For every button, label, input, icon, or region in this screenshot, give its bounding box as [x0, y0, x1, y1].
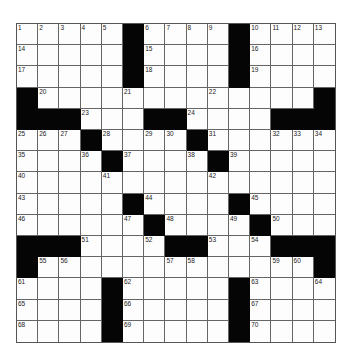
- grid-cell[interactable]: [271, 172, 292, 193]
- grid-cell[interactable]: [314, 321, 335, 342]
- grid-cell[interactable]: [102, 236, 123, 257]
- grid-cell[interactable]: [271, 66, 292, 87]
- grid-cell[interactable]: [293, 45, 314, 66]
- grid-cell[interactable]: [123, 109, 144, 130]
- grid-cell[interactable]: [59, 300, 80, 321]
- grid-cell[interactable]: [102, 109, 123, 130]
- grid-cell[interactable]: 9: [208, 24, 229, 45]
- grid-cell[interactable]: 39: [229, 151, 250, 172]
- grid-cell[interactable]: 42: [208, 172, 229, 193]
- grid-cell[interactable]: 51: [81, 236, 102, 257]
- grid-cell[interactable]: [187, 172, 208, 193]
- grid-cell[interactable]: [250, 151, 271, 172]
- grid-cell[interactable]: [250, 109, 271, 130]
- grid-cell[interactable]: [165, 151, 186, 172]
- grid-cell[interactable]: [144, 151, 165, 172]
- grid-cell[interactable]: 43: [17, 194, 38, 215]
- grid-cell[interactable]: [293, 278, 314, 299]
- grid-cell[interactable]: 40: [17, 172, 38, 193]
- grid-cell[interactable]: [59, 151, 80, 172]
- grid-cell[interactable]: 50: [271, 215, 292, 236]
- grid-cell[interactable]: 6: [144, 24, 165, 45]
- grid-cell[interactable]: 70: [250, 321, 271, 342]
- grid-cell[interactable]: [187, 88, 208, 109]
- grid-cell[interactable]: [187, 215, 208, 236]
- grid-cell[interactable]: 35: [17, 151, 38, 172]
- grid-cell[interactable]: [59, 194, 80, 215]
- grid-cell[interactable]: 61: [17, 278, 38, 299]
- grid-cell[interactable]: [165, 45, 186, 66]
- grid-cell[interactable]: [229, 257, 250, 278]
- grid-cell[interactable]: 33: [293, 130, 314, 151]
- grid-cell[interactable]: [144, 172, 165, 193]
- grid-cell[interactable]: [144, 278, 165, 299]
- grid-cell[interactable]: [59, 172, 80, 193]
- grid-cell[interactable]: [38, 194, 59, 215]
- grid-cell[interactable]: 19: [250, 66, 271, 87]
- grid-cell[interactable]: [314, 172, 335, 193]
- grid-cell[interactable]: [38, 45, 59, 66]
- grid-cell[interactable]: [208, 321, 229, 342]
- grid-cell[interactable]: 34: [314, 130, 335, 151]
- grid-cell[interactable]: [165, 172, 186, 193]
- grid-cell[interactable]: [208, 194, 229, 215]
- grid-cell[interactable]: [208, 278, 229, 299]
- grid-cell[interactable]: [187, 278, 208, 299]
- grid-cell[interactable]: [59, 278, 80, 299]
- grid-cell[interactable]: 41: [102, 172, 123, 193]
- grid-cell[interactable]: [314, 45, 335, 66]
- grid-cell[interactable]: [81, 257, 102, 278]
- grid-cell[interactable]: 8: [187, 24, 208, 45]
- grid-cell[interactable]: 66: [123, 300, 144, 321]
- grid-cell[interactable]: [187, 45, 208, 66]
- grid-cell[interactable]: 22: [208, 88, 229, 109]
- grid-cell[interactable]: [81, 88, 102, 109]
- grid-cell[interactable]: [271, 151, 292, 172]
- grid-cell[interactable]: [271, 300, 292, 321]
- grid-cell[interactable]: [81, 300, 102, 321]
- grid-cell[interactable]: [102, 88, 123, 109]
- grid-cell[interactable]: [81, 66, 102, 87]
- grid-cell[interactable]: 25: [17, 130, 38, 151]
- grid-cell[interactable]: [271, 45, 292, 66]
- grid-cell[interactable]: [229, 172, 250, 193]
- grid-cell[interactable]: 46: [17, 215, 38, 236]
- grid-cell[interactable]: [229, 130, 250, 151]
- grid-cell[interactable]: [123, 130, 144, 151]
- grid-cell[interactable]: 68: [17, 321, 38, 342]
- grid-cell[interactable]: [59, 321, 80, 342]
- grid-cell[interactable]: [314, 151, 335, 172]
- grid-cell[interactable]: [250, 88, 271, 109]
- grid-cell[interactable]: [271, 88, 292, 109]
- grid-cell[interactable]: 30: [165, 130, 186, 151]
- grid-cell[interactable]: [59, 88, 80, 109]
- grid-cell[interactable]: 32: [271, 130, 292, 151]
- grid-cell[interactable]: 14: [17, 45, 38, 66]
- grid-cell[interactable]: [144, 321, 165, 342]
- grid-cell[interactable]: [102, 257, 123, 278]
- grid-cell[interactable]: 28: [102, 130, 123, 151]
- grid-cell[interactable]: 53: [208, 236, 229, 257]
- grid-cell[interactable]: 23: [81, 109, 102, 130]
- grid-cell[interactable]: [165, 321, 186, 342]
- grid-cell[interactable]: 16: [250, 45, 271, 66]
- grid-cell[interactable]: [123, 236, 144, 257]
- grid-cell[interactable]: 47: [123, 215, 144, 236]
- grid-cell[interactable]: 58: [187, 257, 208, 278]
- grid-cell[interactable]: 65: [17, 300, 38, 321]
- grid-cell[interactable]: 27: [59, 130, 80, 151]
- grid-cell[interactable]: 1: [17, 24, 38, 45]
- grid-cell[interactable]: [123, 172, 144, 193]
- grid-cell[interactable]: [250, 172, 271, 193]
- grid-cell[interactable]: [81, 321, 102, 342]
- grid-cell[interactable]: [59, 66, 80, 87]
- grid-cell[interactable]: [165, 66, 186, 87]
- grid-cell[interactable]: [293, 172, 314, 193]
- grid-cell[interactable]: [293, 66, 314, 87]
- grid-cell[interactable]: [102, 194, 123, 215]
- grid-cell[interactable]: [208, 300, 229, 321]
- grid-cell[interactable]: [81, 45, 102, 66]
- grid-cell[interactable]: [81, 172, 102, 193]
- grid-cell[interactable]: [38, 300, 59, 321]
- grid-cell[interactable]: 55: [38, 257, 59, 278]
